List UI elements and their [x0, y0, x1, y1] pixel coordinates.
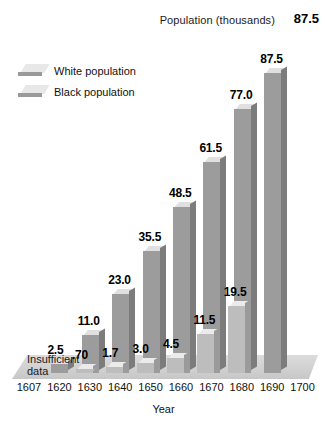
x-tick-1607: 1607	[14, 381, 44, 393]
x-tick-1620: 1620	[44, 381, 74, 393]
bar-black-1640-value-label: 1.7	[102, 346, 118, 360]
x-tick-1640: 1640	[105, 381, 135, 393]
bar-black-1650-value-label: 3.0	[133, 342, 149, 356]
bar-white-1640-value-label: 23.0	[108, 273, 131, 287]
bar-white-1690	[264, 73, 281, 373]
x-tick-1690: 1690	[257, 381, 287, 393]
x-axis-title: Year	[0, 403, 327, 415]
bar-black-1640	[106, 367, 123, 373]
x-tick-1660: 1660	[166, 381, 196, 393]
bar-white-1670-value-label: 61.5	[199, 141, 222, 155]
population-bar-chart: Population (thousands) 87.5 White popula…	[0, 0, 327, 433]
x-tick-1630: 1630	[75, 381, 105, 393]
bar-white-1630-value-label: 11.0	[78, 314, 100, 328]
bar-black-1660	[167, 358, 184, 373]
x-tick-1650: 1650	[136, 381, 166, 393]
x-axis-ticks: 1607162016301640165016601670168016901700	[0, 381, 327, 397]
insufficient-data-note: Insufficient data	[27, 353, 91, 377]
bar-black-1680-value-label: 19.5	[224, 285, 247, 299]
x-tick-1670: 1670	[196, 381, 226, 393]
bar-white-1650-value-label: 35.5	[139, 230, 162, 244]
bar-black-1680	[228, 306, 245, 373]
bar-white-1660-value-label: 48.5	[169, 186, 192, 200]
bar-white-1680-value-label: 77.0	[230, 88, 253, 102]
bar-black-1650	[137, 363, 154, 373]
x-tick-1700: 1700	[288, 381, 318, 393]
bar-black-1670-value-label: 11.5	[193, 313, 215, 327]
bar-black-1660-value-label: 4.5	[163, 337, 179, 351]
plot-area: 2.511.023.035.548.561.577.087.5.701.73.0…	[0, 0, 327, 433]
bar-white-1690-value-label: 87.5	[260, 52, 283, 66]
bar-black-1670	[197, 334, 214, 373]
x-tick-1680: 1680	[227, 381, 257, 393]
